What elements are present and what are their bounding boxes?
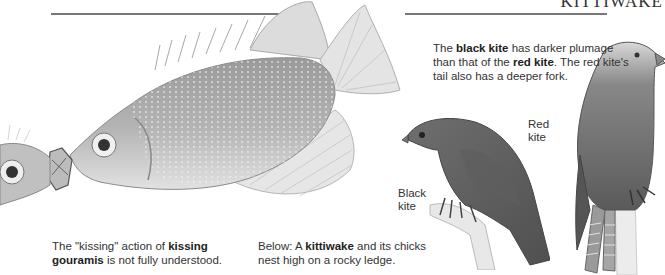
kissing-gouramis-illustration [0,0,460,240]
black-kite-term: black kite [456,42,508,54]
red-kite-term: red kite [513,56,554,68]
gouramis-caption: The "kissing" action of kissing gouramis… [52,239,232,267]
kittiwake-term: kittiwake [305,240,354,252]
running-head: KITTIWAKE [561,0,663,12]
kittiwake-caption: Below: A kittiwake and its chicks nest h… [258,239,438,267]
red-kite-label: Red kite [528,118,549,144]
kite-caption: The black kite has darker plumage than t… [433,41,633,83]
black-kite-label: Black kite [398,187,426,213]
